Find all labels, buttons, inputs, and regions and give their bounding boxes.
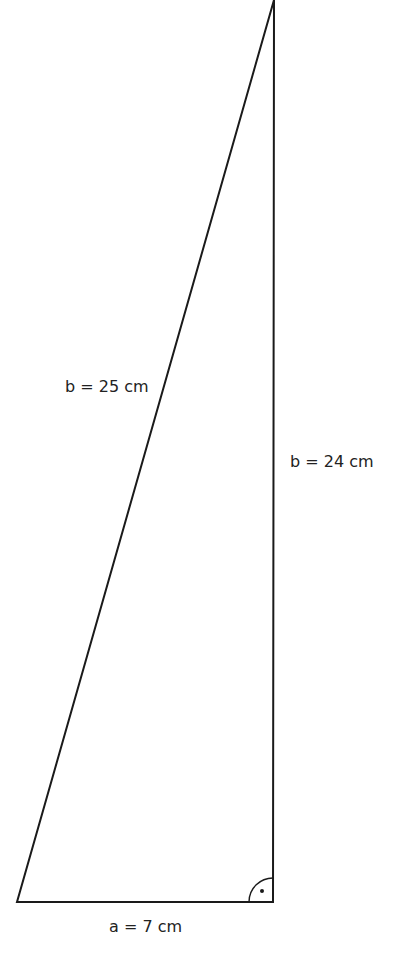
vertical-leg-label: b = 24 cm bbox=[290, 452, 374, 472]
triangle-diagram bbox=[0, 0, 399, 954]
base-label: a = 7 cm bbox=[109, 917, 182, 937]
right-triangle bbox=[17, 0, 274, 902]
hypotenuse-label: b = 25 cm bbox=[65, 377, 149, 397]
right-angle-dot bbox=[260, 889, 264, 893]
